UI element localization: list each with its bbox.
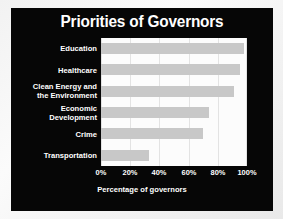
bar-row (101, 102, 247, 123)
category-label: Transportation (15, 151, 97, 160)
x-tick-label: 60% (173, 168, 205, 177)
figure-frame: Priorities of Governors EducationHealthc… (0, 0, 283, 219)
bar-row (101, 38, 247, 59)
bar (101, 86, 234, 97)
bar (101, 43, 244, 54)
bar (101, 107, 209, 118)
category-label: Education (15, 44, 97, 53)
chart-panel: Priorities of Governors EducationHealthc… (11, 8, 273, 211)
bar-row (101, 123, 247, 144)
x-tick-label: 20% (114, 168, 146, 177)
plot-area (101, 38, 247, 166)
bar (101, 128, 203, 139)
bar-row (101, 81, 247, 102)
category-label: Healthcare (15, 66, 97, 75)
bar-row (101, 145, 247, 166)
x-tick-label: 80% (202, 168, 234, 177)
bar (101, 150, 149, 161)
bar (101, 64, 240, 75)
x-tick-label: 0% (85, 168, 117, 177)
chart-title: Priorities of Governors (16, 13, 268, 31)
category-axis-labels: EducationHealthcareClean Energy and the … (11, 38, 97, 166)
x-axis-title: Percentage of governors (18, 185, 267, 194)
category-label: Clean Energy and the Environment (15, 82, 97, 100)
x-axis-tick-labels: 0%20%40%60%80%100% (101, 168, 247, 180)
x-tick-label: 40% (143, 168, 175, 177)
bar-row (101, 59, 247, 80)
category-label: Crime (15, 130, 97, 139)
category-label: Economic Development (15, 104, 97, 122)
x-tick-label: 100% (231, 168, 263, 177)
